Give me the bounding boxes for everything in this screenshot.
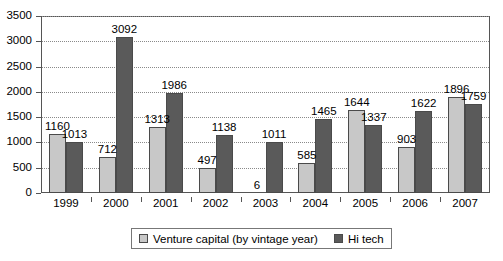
data-label-venture-capital-2002: 497: [187, 154, 227, 166]
data-label-venture-capital-2004: 585: [287, 149, 327, 161]
x-axis: 199920002001200220032004200520062007: [41, 197, 490, 217]
x-tick-mark: [91, 197, 92, 202]
legend-label-venture-capital: Venture capital (by vintage year): [153, 233, 318, 245]
data-labels-layer: 1160101371230921313198649711386101158514…: [0, 0, 503, 200]
x-tick-label: 2000: [91, 197, 141, 209]
x-tick-label: 2004: [290, 197, 340, 209]
data-label-hi-tech-1999: 1013: [54, 128, 94, 140]
data-label-venture-capital-2005: 1644: [337, 96, 377, 108]
bar-chart: 0500100015002000250030003500 11601013712…: [0, 0, 503, 261]
data-label-venture-capital-2006: 903: [387, 133, 427, 145]
data-label-venture-capital-2001: 1313: [137, 113, 177, 125]
x-tick-mark: [340, 197, 341, 202]
x-tick-label: 2001: [141, 197, 191, 209]
data-label-hi-tech-2006: 1622: [404, 97, 444, 109]
x-tick-mark: [290, 197, 291, 202]
x-tick-mark: [191, 197, 192, 202]
data-label-hi-tech-2000: 3092: [104, 23, 144, 35]
x-tick-label: 2006: [390, 197, 440, 209]
chart-legend: Venture capital (by vintage year) Hi tec…: [131, 228, 392, 249]
data-label-hi-tech-2002: 1138: [204, 121, 244, 133]
x-tick-label: 2003: [241, 197, 291, 209]
x-tick-mark: [440, 197, 441, 202]
legend-entry-venture-capital[interactable]: Venture capital (by vintage year): [139, 233, 318, 245]
data-label-venture-capital-2003: 6: [237, 179, 277, 191]
legend-swatch-venture-capital: [139, 234, 148, 243]
x-tick-label: 2007: [440, 197, 490, 209]
x-tick-mark: [241, 197, 242, 202]
legend-swatch-hi-tech: [334, 234, 343, 243]
data-label-venture-capital-2000: 712: [87, 143, 127, 155]
data-label-hi-tech-2003: 1011: [254, 128, 294, 140]
legend-entry-hi-tech[interactable]: Hi tech: [334, 233, 384, 245]
data-label-hi-tech-2007: 1759: [454, 90, 494, 102]
x-tick-label: 1999: [41, 197, 91, 209]
x-tick-mark: [390, 197, 391, 202]
x-tick-label: 2002: [191, 197, 241, 209]
legend-label-hi-tech: Hi tech: [348, 233, 384, 245]
x-tick-mark: [141, 197, 142, 202]
data-label-hi-tech-2005: 1337: [354, 111, 394, 123]
data-label-hi-tech-2001: 1986: [154, 79, 194, 91]
x-tick-label: 2005: [340, 197, 390, 209]
